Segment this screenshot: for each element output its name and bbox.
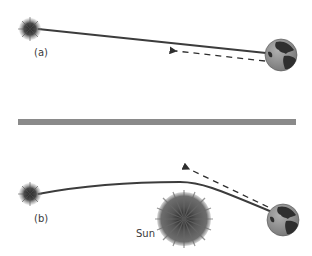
dashed-arrow-icon — [176, 51, 265, 61]
star-icon — [18, 182, 42, 206]
panel-divider — [18, 119, 296, 125]
earth-icon — [267, 204, 299, 236]
panel-a — [18, 17, 297, 71]
star-icon — [18, 17, 42, 41]
light-path-b — [38, 182, 272, 212]
sun-label: Sun — [136, 228, 155, 239]
panel-b — [18, 169, 299, 248]
light-path-a — [38, 29, 266, 53]
panel-b-label: (b) — [34, 213, 48, 224]
panel-a-label: (a) — [34, 47, 48, 58]
sun-icon — [155, 190, 213, 248]
earth-icon — [265, 39, 297, 71]
